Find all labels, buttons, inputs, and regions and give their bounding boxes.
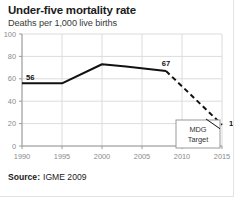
y-axis-tick-labels: 020406080100 [4, 30, 16, 151]
data-point-label: 56 [26, 73, 34, 82]
x-axis-tick-label: 2010 [174, 152, 190, 161]
x-axis-tick-label: 2005 [134, 152, 150, 161]
x-axis-tick-label: 2000 [94, 152, 110, 161]
y-axis-tick-label: 60 [8, 74, 16, 83]
mdg-target-line2: Target [188, 135, 209, 144]
y-axis-tick-label: 40 [8, 97, 16, 106]
source-note: Source:IGME 2009 [8, 172, 86, 182]
x-axis-tick-label: 1990 [14, 152, 30, 161]
data-point-label: 67 [162, 59, 170, 68]
y-axis-tick-label: 0 [12, 142, 16, 151]
mdg-target-line1: MDG [189, 125, 206, 134]
x-axis-tick-label: 2015 [214, 152, 230, 161]
chart-plot-area: 020406080100 199019952000200520102015 56… [0, 28, 234, 168]
y-axis-tick-label: 80 [8, 52, 16, 61]
chart-subtitle: Deaths per 1,000 live births [8, 18, 117, 28]
chart-card: Under-five mortality rate Deaths per 1,0… [0, 0, 234, 197]
line-chart: 020406080100 199019952000200520102015 56… [0, 28, 234, 168]
mdg-target-callout: MDGTarget [176, 119, 220, 148]
source-label: Source: [8, 172, 40, 182]
y-axis-tick-label: 100 [4, 30, 16, 39]
x-axis-tick-labels: 199019952000200520102015 [14, 152, 230, 161]
y-axis-tick-label: 20 [8, 119, 16, 128]
source-value: IGME 2009 [43, 172, 86, 182]
x-axis-tick-label: 1995 [54, 152, 70, 161]
series-line-observed [22, 64, 166, 83]
data-series [22, 64, 222, 124]
data-point-labels: 566719 [26, 59, 234, 128]
page-title: Under-five mortality rate [8, 4, 136, 16]
data-point-label: 19 [229, 119, 234, 128]
